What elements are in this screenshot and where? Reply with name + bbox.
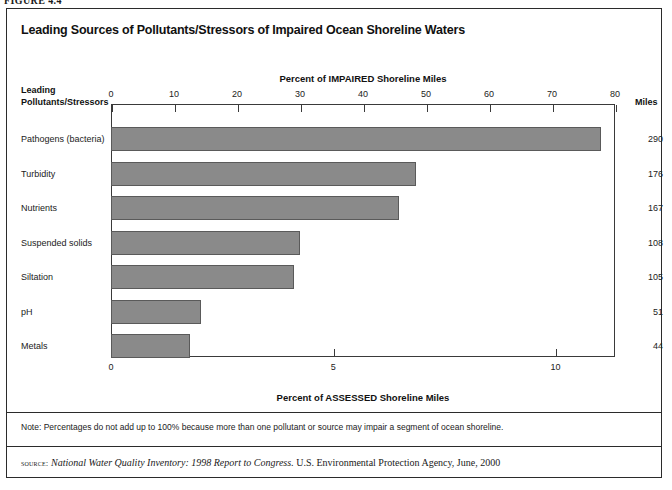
miles-value: 176 — [635, 169, 663, 179]
axis-title-bottom: Percent of ASSESSED Shoreline Miles — [111, 392, 615, 403]
axis-top-tick-label: 70 — [547, 89, 557, 99]
axis-top-tick — [616, 105, 617, 112]
axis-top-tick-label: 20 — [232, 89, 242, 99]
figure-caption: FIGURE 4.4 — [4, 0, 62, 6]
axis-top-tick — [553, 105, 554, 112]
category-label: pH — [21, 307, 33, 317]
source-line: source: National Water Quality Inventory… — [21, 457, 500, 468]
source-prefix: source: — [21, 458, 49, 468]
axis-bottom-tick-label: 5 — [331, 362, 336, 372]
miles-column-header: Miles — [635, 97, 658, 107]
bar — [111, 162, 416, 186]
axis-top-tick-label: 40 — [358, 89, 368, 99]
source-title: National Water Quality Inventory: 1998 R… — [51, 457, 294, 468]
y-axis-header-line2: Pollutants/Stressors — [21, 97, 109, 109]
axis-top-tick-label: 10 — [169, 89, 179, 99]
note-divider-bottom — [7, 446, 661, 447]
axis-top-tick-label: 0 — [108, 89, 113, 99]
axis-top-tick-label: 60 — [484, 89, 494, 99]
axis-bottom-tick-label: 0 — [108, 362, 113, 372]
axis-top-tick-label: 30 — [295, 89, 305, 99]
axis-top-tick — [301, 105, 302, 112]
axis-top-tick — [112, 105, 113, 112]
bar — [111, 231, 300, 255]
miles-value: 44 — [635, 341, 663, 351]
category-label: Nutrients — [21, 203, 57, 213]
y-axis-header: Leading Pollutants/Stressors — [21, 85, 109, 108]
axis-top-tick — [490, 105, 491, 112]
category-label: Turbidity — [21, 169, 55, 179]
note-divider-top — [7, 412, 661, 413]
y-axis-header-line1: Leading — [21, 85, 109, 97]
category-label: Suspended solids — [21, 238, 92, 248]
axis-top-tick-label: 50 — [421, 89, 431, 99]
axis-top-tick — [364, 105, 365, 112]
bar — [111, 300, 201, 324]
miles-value: 51 — [635, 307, 663, 317]
bar-chart: Percent of IMPAIRED Shoreline Miles Lead… — [7, 9, 661, 477]
axis-bottom-tick — [556, 349, 557, 356]
miles-value: 167 — [635, 203, 663, 213]
axis-top-tick — [175, 105, 176, 112]
category-label: Pathogens (bacteria) — [21, 134, 105, 144]
bar — [111, 127, 601, 151]
axis-title-top: Percent of IMPAIRED Shoreline Miles — [111, 73, 615, 84]
axis-top-tick — [427, 105, 428, 112]
category-label: Siltation — [21, 272, 53, 282]
miles-value: 290 — [635, 134, 663, 144]
axis-top-tick-label: 80 — [610, 89, 620, 99]
axis-top-tick — [238, 105, 239, 112]
axis-bottom-tick-label: 10 — [550, 362, 560, 372]
category-label: Metals — [21, 341, 48, 351]
axis-bottom-tick — [334, 349, 335, 356]
bar — [111, 334, 190, 358]
miles-value: 105 — [635, 272, 663, 282]
bar — [111, 265, 294, 289]
bar — [111, 196, 399, 220]
miles-value: 108 — [635, 238, 663, 248]
figure-frame: Leading Sources of Pollutants/Stressors … — [6, 8, 662, 478]
chart-note: Note: Percentages do not add up to 100% … — [21, 422, 503, 432]
source-publisher: U.S. Environmental Protection Agency, Ju… — [296, 457, 500, 468]
